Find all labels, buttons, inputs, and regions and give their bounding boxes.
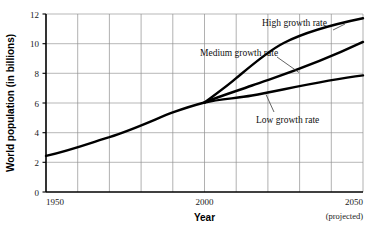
annotation-high-growth-rate: High growth rate: [262, 18, 327, 28]
x-axis-tick-labels: 1950 2000 2050: [46, 197, 364, 207]
x-tick-label-1950: 1950: [46, 197, 65, 207]
annotation-low-growth-rate: Low growth rate: [256, 115, 319, 125]
x-tick-label-2050: 2050: [345, 197, 364, 207]
y-tick-label-6: 6: [35, 99, 40, 109]
y-axis-tick-labels: 12 10 8 6 4 2 0: [30, 10, 40, 198]
x-axis-title: Year: [194, 212, 215, 223]
y-tick-label-0: 0: [35, 188, 40, 198]
projected-note: (projected): [326, 211, 363, 221]
chart-figure: 12 10 8 6 4 2 0 1950 2000 2050 (projecte…: [0, 0, 390, 234]
x-tick-label-2000: 2000: [196, 197, 215, 207]
y-tick-label-10: 10: [30, 39, 40, 49]
y-tick-label-4: 4: [35, 128, 40, 138]
y-axis-title: World population (in billions): [5, 34, 16, 172]
world-population-line-chart: 12 10 8 6 4 2 0 1950 2000 2050 (projecte…: [0, 0, 390, 234]
y-tick-label-8: 8: [35, 69, 40, 79]
y-tick-label-12: 12: [30, 10, 39, 20]
y-tick-label-2: 2: [35, 158, 40, 168]
annotation-medium-growth-rate: Medium growth rate: [200, 48, 278, 58]
